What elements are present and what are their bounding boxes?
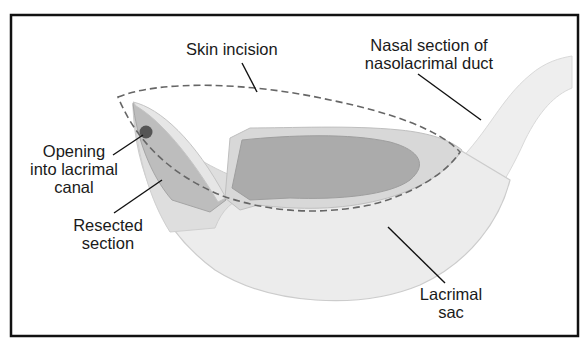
label-text: Skin incision xyxy=(186,40,278,58)
diagram-figure: Skin incision Nasal section of nasolacri… xyxy=(0,0,587,342)
label-text: Lacrimal xyxy=(410,285,492,303)
label-opening-canal: Opening into lacrimal canal xyxy=(20,142,128,196)
label-text: section xyxy=(62,234,154,252)
label-text: canal xyxy=(20,178,128,196)
label-text: into lacrimal xyxy=(20,160,128,178)
label-text: Opening xyxy=(20,142,128,160)
label-skin-incision: Skin incision xyxy=(186,40,278,58)
label-text: sac xyxy=(410,303,492,321)
label-resected-section: Resected section xyxy=(62,216,154,252)
label-text: Nasal section of xyxy=(346,36,512,54)
label-text: Resected xyxy=(62,216,154,234)
label-nasal-section: Nasal section of nasolacrimal duct xyxy=(346,36,512,72)
label-text: nasolacrimal duct xyxy=(346,54,512,72)
label-lacrimal-sac: Lacrimal sac xyxy=(410,285,492,321)
